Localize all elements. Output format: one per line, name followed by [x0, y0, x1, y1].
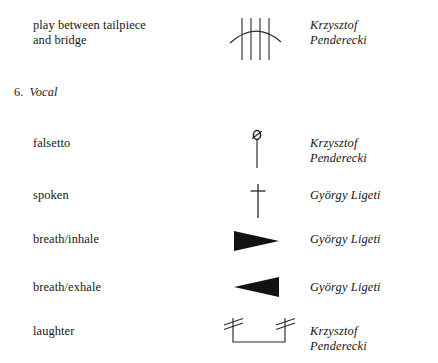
section-heading: 6.Vocal: [14, 85, 58, 100]
composer-label: György Ligeti: [310, 188, 381, 203]
four-vertical-lines-with-arc-icon: [228, 14, 288, 62]
term-label: laughter: [33, 324, 74, 339]
composer-label: Krzysztof Penderecki: [310, 136, 367, 165]
term-label: spoken: [33, 188, 69, 203]
section-number: 6.: [14, 85, 24, 99]
u-bracket-with-slashed-stems-icon: [214, 312, 306, 354]
dagger-icon: [246, 182, 272, 222]
filled-triangle-right-icon: [231, 228, 289, 254]
notation-glossary-page: play between tailpiece and bridge Krzysz…: [0, 0, 438, 363]
section-title: Vocal: [30, 85, 58, 99]
term-label: breath/inhale: [33, 232, 99, 247]
term-label: play between tailpiece and bridge: [33, 18, 146, 47]
composer-label: Krzysztof Penderecki: [310, 18, 367, 47]
composer-label: Krzysztof Penderecki: [310, 324, 367, 353]
slashed-circle-head-with-stem-icon: [246, 127, 272, 171]
composer-label: György Ligeti: [310, 232, 381, 247]
composer-label: György Ligeti: [310, 280, 381, 295]
term-label: falsetto: [33, 136, 70, 151]
term-label: breath/exhale: [33, 280, 101, 295]
filled-triangle-left-icon: [231, 274, 289, 300]
